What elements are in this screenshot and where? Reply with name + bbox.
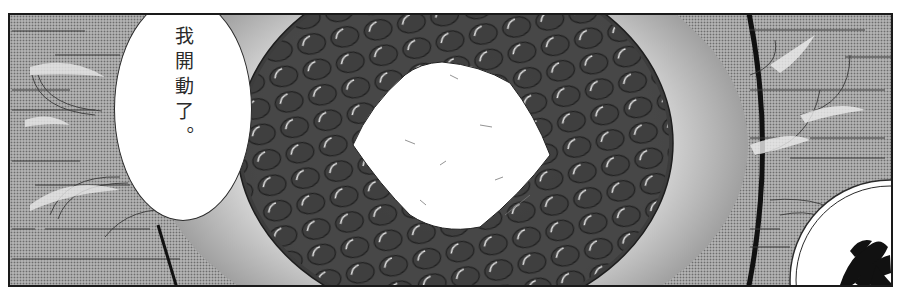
bowl-edge-left [158, 225, 182, 285]
manga-panel: 我開動了。 [8, 13, 893, 287]
speech-bubble-text: 我開動了。 [174, 26, 193, 151]
highlight-wisps-right [750, 35, 865, 155]
highlight-wisps-left [25, 63, 120, 211]
